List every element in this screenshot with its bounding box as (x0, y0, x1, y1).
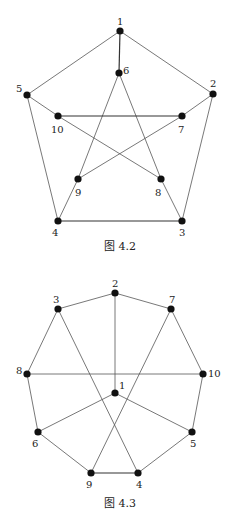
node-2 (209, 90, 216, 97)
edge-3-4 (58, 309, 138, 473)
graph-figures-canvas: 12345678910图 4.2 12345678910图 4.3 (0, 0, 231, 520)
edge-6-8 (119, 73, 161, 179)
node-label: 5 (190, 438, 196, 449)
edge-10-5 (192, 374, 203, 432)
edge-7-9 (78, 116, 182, 179)
node-label: 9 (75, 187, 81, 198)
figure-caption: 图 4.2 (104, 240, 136, 253)
edge-2-7 (115, 293, 171, 309)
edge-7-10 (171, 309, 203, 374)
node-label: 10 (51, 124, 64, 135)
edge-6-9 (78, 73, 119, 179)
node-3 (178, 217, 185, 224)
node-4 (54, 217, 61, 224)
node-label: 1 (119, 380, 125, 391)
node-3 (54, 305, 61, 312)
node-label: 6 (123, 65, 129, 76)
edge-10-8 (58, 116, 161, 179)
node-5 (188, 428, 195, 435)
node-6 (34, 428, 41, 435)
node-7 (167, 305, 174, 312)
node-1 (111, 389, 118, 396)
edge-1-5 (27, 31, 120, 95)
node-5 (23, 91, 30, 98)
node-8 (23, 370, 30, 377)
node-label: 3 (179, 227, 185, 238)
node-4 (134, 469, 141, 476)
node-7 (178, 112, 185, 119)
node-label: 8 (155, 187, 161, 198)
edge-8-6 (27, 374, 38, 432)
figure-4-3-petersen-octagon: 12345678910图 4.3 (16, 278, 221, 510)
edge-6-9 (38, 432, 91, 473)
node-2 (111, 289, 118, 296)
figure-4-2-petersen-pentagon: 12345678910图 4.2 (16, 16, 217, 253)
edge-3-8 (161, 179, 182, 221)
node-label: 6 (32, 438, 38, 449)
edge-2-3 (58, 293, 115, 309)
node-label: 4 (136, 479, 142, 490)
node-label: 1 (117, 16, 123, 27)
node-8 (157, 175, 164, 182)
edge-5-4 (138, 432, 192, 473)
edge-3-8 (27, 309, 58, 374)
node-label: 3 (53, 294, 59, 305)
edge-4-5 (27, 95, 58, 221)
node-6 (115, 69, 122, 76)
edge-1-6 (38, 393, 115, 432)
node-10 (199, 370, 206, 377)
node-label: 2 (112, 278, 118, 289)
node-9 (87, 469, 94, 476)
node-label: 2 (210, 78, 216, 89)
figure-caption: 图 4.3 (104, 497, 136, 510)
node-label: 8 (16, 365, 22, 376)
node-label: 10 (208, 368, 221, 379)
node-label: 4 (52, 227, 58, 238)
edge-1-5 (115, 393, 192, 432)
edge-1-6 (119, 31, 120, 73)
node-1 (116, 27, 123, 34)
node-label: 5 (16, 83, 22, 94)
edge-7-9 (91, 309, 171, 473)
node-label: 7 (178, 124, 184, 135)
node-9 (74, 175, 81, 182)
node-10 (54, 112, 61, 119)
node-label: 7 (169, 294, 175, 305)
node-label: 9 (86, 479, 92, 490)
edge-1-2 (120, 31, 213, 94)
edge-4-9 (58, 179, 78, 221)
